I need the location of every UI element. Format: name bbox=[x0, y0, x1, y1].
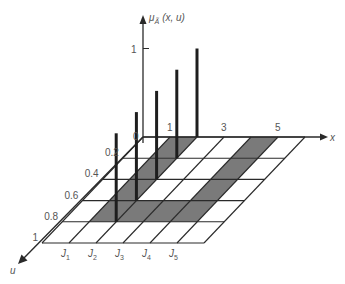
type2-fuzzy-set-diagram: μÃ(x, u) 1 x u 0 1350.20.40.60.81J1J2J3J… bbox=[0, 0, 345, 284]
origin-label: 0 bbox=[133, 131, 139, 142]
j-label: J5 bbox=[168, 248, 178, 261]
grid-col-line bbox=[69, 137, 170, 243]
x-axis-arrow-icon bbox=[320, 134, 328, 141]
j-label: J1 bbox=[60, 248, 70, 261]
membership-axis-label: μÃ(x, u) bbox=[148, 12, 185, 25]
x-tick-label: 5 bbox=[275, 122, 281, 133]
x-tick-label: 3 bbox=[221, 122, 227, 133]
shaded-cell bbox=[211, 158, 258, 179]
membership-axis-arrow-icon bbox=[140, 15, 147, 24]
x-tick-label: 1 bbox=[167, 122, 173, 133]
shaded-cell bbox=[190, 179, 237, 200]
u-tick-label: 0.8 bbox=[44, 211, 58, 222]
u-tick-label: 0.2 bbox=[105, 147, 119, 158]
j-label: J4 bbox=[141, 248, 151, 261]
grid-col-line bbox=[177, 137, 278, 243]
u-tick-label: 0.6 bbox=[64, 190, 78, 201]
membership-tick-label: 1 bbox=[131, 44, 137, 55]
u-tick-label: 1 bbox=[32, 232, 38, 243]
shaded-cell bbox=[231, 137, 278, 158]
u-tick-label: 0.4 bbox=[85, 168, 99, 179]
j-label: J3 bbox=[114, 248, 124, 261]
u-axis-label: u bbox=[10, 265, 16, 276]
x-axis-label: x bbox=[329, 132, 336, 143]
j-label: J2 bbox=[87, 248, 97, 261]
